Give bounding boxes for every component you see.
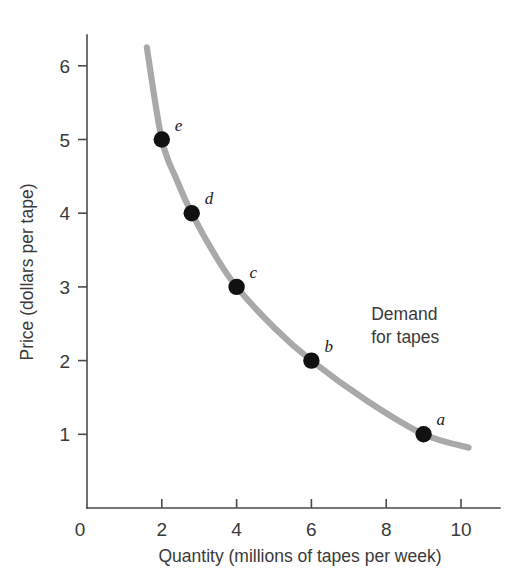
data-point-label-e: e bbox=[175, 116, 183, 135]
demand-curve-label-line2: for tapes bbox=[371, 327, 439, 347]
y-axis-tick-label-4: 4 bbox=[59, 203, 70, 224]
data-point-b bbox=[303, 352, 319, 368]
data-point-d bbox=[184, 205, 200, 221]
y-axis-tick-label-3: 3 bbox=[59, 277, 70, 298]
y-axis-title: Price (dollars per tape) bbox=[17, 183, 37, 360]
y-axis-tick-label-1: 1 bbox=[59, 424, 70, 445]
demand-curve-chart: 123456 246810 0 edcba Demandfor tapes Pr… bbox=[0, 0, 532, 585]
demand-curve-label-line1: Demand bbox=[371, 304, 437, 324]
data-point-label-c: c bbox=[250, 263, 258, 282]
x-axis-tick-label-4: 4 bbox=[231, 519, 242, 540]
data-point-c bbox=[228, 279, 244, 295]
y-axis-tick-label-5: 5 bbox=[59, 130, 70, 151]
data-point-label-b: b bbox=[324, 337, 333, 356]
data-point-e bbox=[154, 131, 170, 147]
data-point-label-d: d bbox=[205, 189, 214, 208]
y-axis-tick-label-6: 6 bbox=[59, 56, 70, 77]
x-axis-tick-label-2: 2 bbox=[157, 519, 168, 540]
chart-canvas: 123456 246810 0 edcba Demandfor tapes Pr… bbox=[0, 0, 532, 585]
data-point-a bbox=[415, 426, 431, 442]
data-point-label-a: a bbox=[437, 410, 446, 429]
chart-background bbox=[0, 0, 532, 585]
y-axis-tick-label-2: 2 bbox=[59, 351, 70, 372]
x-axis-tick-label-8: 8 bbox=[381, 519, 392, 540]
x-axis-tick-label-0: 0 bbox=[75, 519, 86, 540]
x-axis-title: Quantity (millions of tapes per week) bbox=[158, 546, 441, 566]
x-axis-tick-label-10: 10 bbox=[450, 519, 471, 540]
x-axis-tick-label-6: 6 bbox=[306, 519, 317, 540]
